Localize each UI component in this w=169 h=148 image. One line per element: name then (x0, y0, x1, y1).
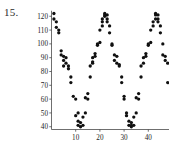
data-point (113, 59, 116, 62)
data-point (69, 75, 72, 78)
data-point (159, 31, 162, 34)
data-point (84, 111, 87, 114)
data-point (156, 13, 159, 16)
data-point (55, 20, 58, 23)
data-point (62, 59, 65, 62)
plot-svg: 405060708090100110120 10203040 (0, 0, 169, 148)
data-point (101, 24, 104, 27)
y-axis-ticks: 405060708090100110120 (37, 13, 51, 131)
data-point (144, 55, 147, 58)
y-tick-label: 120 (37, 13, 48, 21)
data-point (108, 24, 111, 27)
data-point (93, 55, 96, 58)
data-point (135, 111, 138, 114)
data-point (69, 81, 72, 84)
data-point (106, 20, 109, 23)
data-point (86, 97, 89, 100)
data-point (52, 17, 55, 20)
data-point (86, 92, 89, 95)
data-point (76, 111, 79, 114)
data-point (120, 81, 123, 84)
data-point (120, 75, 123, 78)
y-tick-label: 40 (41, 123, 49, 131)
data-point (98, 28, 101, 31)
data-point (101, 17, 104, 20)
x-tick-label: 20 (96, 134, 104, 142)
figure-container: 15. 405060708090100110120 10203040 (0, 0, 169, 148)
data-point (64, 56, 67, 59)
data-point (89, 75, 92, 78)
x-tick-label: 40 (145, 134, 153, 142)
y-tick-label: 70 (41, 82, 49, 90)
data-point (91, 60, 94, 63)
x-axis-ticks: 10203040 (72, 130, 152, 142)
data-point (81, 124, 84, 127)
data-point (132, 115, 135, 118)
data-point (156, 20, 159, 23)
data-point (166, 81, 169, 84)
data-point (147, 44, 150, 47)
data-point (106, 13, 109, 16)
y-tick-label: 110 (37, 27, 48, 35)
data-point (89, 64, 92, 67)
data-point (64, 62, 67, 65)
data-point (74, 114, 77, 117)
data-point (161, 42, 164, 45)
data-point (57, 31, 60, 34)
x-tick-label: 30 (121, 134, 129, 142)
data-point (159, 24, 162, 27)
data-point (110, 44, 113, 47)
data-point (132, 124, 135, 127)
data-point (67, 67, 70, 70)
data-point (62, 64, 65, 67)
data-point (164, 59, 167, 62)
data-point (118, 64, 121, 67)
data-point (137, 92, 140, 95)
data-point (98, 41, 101, 44)
data-point (149, 28, 152, 31)
data-point (60, 49, 63, 52)
data-point (149, 41, 152, 44)
data-point (137, 97, 140, 100)
scatter-plot: 405060708090100110120 10203040 (0, 0, 169, 148)
data-point (79, 121, 82, 124)
data-point (55, 26, 58, 29)
data-point (125, 111, 128, 114)
data-points-group (52, 12, 169, 129)
data-point (151, 20, 154, 23)
data-point (166, 62, 169, 65)
y-tick-label: 80 (41, 68, 49, 76)
data-point (72, 95, 75, 98)
data-point (96, 44, 99, 47)
data-point (74, 97, 77, 100)
data-point (151, 24, 154, 27)
data-point (52, 12, 55, 15)
y-tick-label: 50 (41, 110, 49, 118)
y-tick-label: 100 (37, 40, 48, 48)
data-point (115, 55, 118, 58)
data-point (164, 55, 167, 58)
y-tick-label: 60 (41, 96, 49, 104)
data-point (122, 97, 125, 100)
data-point (108, 31, 111, 34)
y-tick-label: 90 (41, 54, 49, 62)
data-point (142, 62, 145, 65)
x-tick-label: 10 (72, 134, 80, 142)
data-point (139, 75, 142, 78)
data-point (81, 115, 84, 118)
data-point (139, 64, 142, 67)
